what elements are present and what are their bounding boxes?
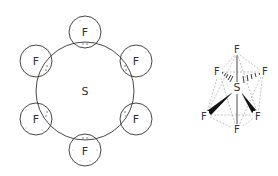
svg-text:F: F	[82, 26, 88, 39]
svg-text:F: F	[234, 124, 240, 135]
svg-text:F: F	[133, 113, 139, 126]
svg-text:F: F	[82, 145, 88, 158]
wedge-bond-left	[207, 92, 233, 115]
fluorine-bottom: F	[69, 134, 101, 166]
svg-text:S: S	[234, 81, 241, 94]
fluorine-lower-left: F	[20, 103, 52, 135]
svg-text:F: F	[133, 55, 139, 68]
fluorine-upper-left: F	[20, 45, 52, 77]
svg-text:F: F	[201, 111, 207, 122]
svg-text:F: F	[262, 66, 268, 77]
sf6-diagrams: S F F F F	[0, 0, 278, 176]
svg-text:F: F	[33, 113, 39, 126]
hashed-bond-left	[222, 72, 233, 82]
sulfur-label: S	[82, 85, 89, 98]
fluorine-upper-right: F	[120, 45, 152, 77]
wedge-bond-right	[241, 92, 256, 113]
svg-text:F: F	[33, 55, 39, 68]
left-diagram: S F F F F	[20, 16, 152, 166]
svg-text:F: F	[234, 44, 240, 55]
fluorine-top: F	[69, 16, 101, 48]
svg-text:F: F	[214, 66, 220, 77]
svg-text:F: F	[255, 111, 261, 122]
right-diagram: F F F S F F F	[200, 44, 269, 135]
